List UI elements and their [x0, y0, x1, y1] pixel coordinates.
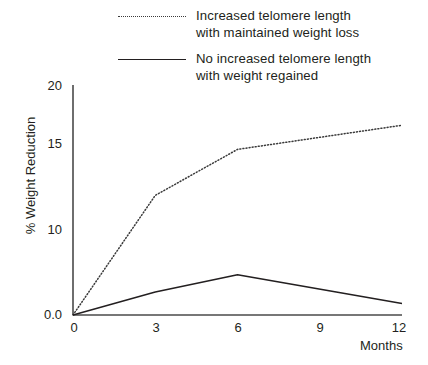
y-tick-label-20: 20	[20, 78, 62, 93]
plot-area	[0, 0, 428, 365]
y-axis-title: % Weight Reduction	[23, 106, 38, 246]
x-tick-label-3: 3	[149, 320, 163, 335]
series-line-no-increase	[73, 275, 402, 315]
x-tick-label-6: 6	[231, 320, 245, 335]
x-tick-label-0: 0	[67, 320, 81, 335]
x-tick-label-12: 12	[388, 320, 410, 335]
series-line-increased-telomere	[73, 125, 402, 315]
chart-figure: Increased telomere length with maintaine…	[0, 0, 428, 365]
x-axis-title: Months	[360, 338, 403, 353]
y-tick-label-0: 0.0	[14, 307, 62, 322]
x-tick-label-9: 9	[313, 320, 327, 335]
